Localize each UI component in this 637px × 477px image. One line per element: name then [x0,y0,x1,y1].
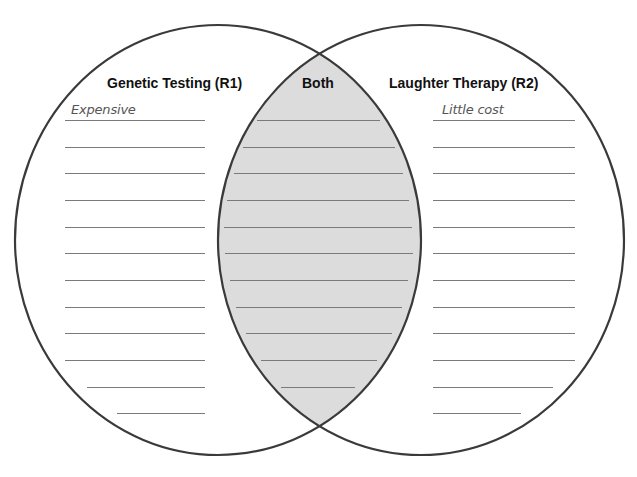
left-line[interactable] [65,120,205,121]
left-line[interactable] [65,200,205,201]
right-line[interactable] [433,413,521,414]
both-line[interactable] [246,333,392,334]
right-entry: Little cost [442,102,504,117]
right-line[interactable] [433,253,575,254]
left-line[interactable] [65,147,205,148]
right-line[interactable] [433,120,575,121]
right-line[interactable] [433,387,553,388]
left-line[interactable] [65,360,205,361]
writing-lines [0,0,637,477]
left-line[interactable] [65,307,205,308]
left-line[interactable] [65,280,205,281]
right-line[interactable] [433,280,575,281]
right-line[interactable] [433,333,575,334]
left-line[interactable] [65,227,205,228]
both-line[interactable] [224,227,412,228]
both-line[interactable] [257,120,380,121]
both-line[interactable] [261,360,377,361]
both-line[interactable] [225,253,413,254]
both-line[interactable] [234,173,403,174]
both-line[interactable] [230,280,408,281]
right-line[interactable] [433,360,575,361]
right-line[interactable] [433,227,575,228]
right-line[interactable] [433,200,575,201]
left-entry: Expensive [71,102,136,117]
both-line[interactable] [243,147,395,148]
left-title: Genetic Testing (R1) [107,75,242,91]
left-line[interactable] [65,253,205,254]
right-title: Laughter Therapy (R2) [389,75,538,91]
right-line[interactable] [433,307,575,308]
both-line[interactable] [281,387,355,388]
left-line[interactable] [87,387,205,388]
both-line[interactable] [227,200,409,201]
left-line[interactable] [65,333,205,334]
right-line[interactable] [433,147,575,148]
left-line[interactable] [65,173,205,174]
both-line[interactable] [236,307,402,308]
right-line[interactable] [433,173,575,174]
both-title: Both [302,75,334,91]
left-line[interactable] [117,413,205,414]
